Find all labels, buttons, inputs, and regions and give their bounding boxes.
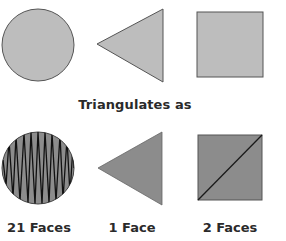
circle-face-count-label: 21 Faces xyxy=(0,220,78,235)
triangulated-shapes-row xyxy=(2,132,262,205)
original-circle-icon xyxy=(2,9,74,81)
triangulated-triangle-icon xyxy=(98,132,162,205)
original-shapes-row xyxy=(2,9,263,82)
original-triangle-icon xyxy=(97,9,163,82)
triangulated-circle-icon xyxy=(2,132,74,204)
triangulated-square-icon xyxy=(198,135,262,200)
original-square-icon xyxy=(197,12,263,77)
triangulates-as-caption: Triangulates as xyxy=(0,97,270,112)
square-face-count-label: 2 Faces xyxy=(190,220,270,235)
triangulation-diagram xyxy=(0,0,286,241)
triangle-face-count-label: 1 Face xyxy=(92,220,172,235)
